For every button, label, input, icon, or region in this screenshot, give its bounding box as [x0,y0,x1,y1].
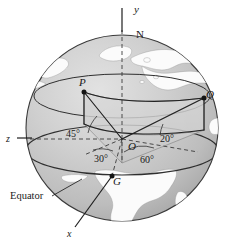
point-label-N: N [136,28,144,40]
angle-label-30: 30° [94,153,108,164]
spherical-coordinates-figure: y N z x P Q O G 45° 20° 30° 60° Equator [0,0,245,247]
angle-label-60: 60° [140,154,154,165]
angle-label-45: 45° [66,128,80,139]
dot-P [82,90,87,95]
landmass-madagascar [175,191,187,208]
point-label-O: O [128,140,136,152]
axis-label-x: x [66,228,72,239]
point-label-Q: Q [206,88,214,100]
landmass-oceania [214,149,226,160]
axis-label-z: z [5,133,10,144]
landmass-island-a [144,58,151,63]
angle-label-20: 20° [160,133,174,144]
earth-diagram-svg: y N z x P Q O G 45° 20° 30° 60° Equator [0,0,245,247]
point-label-P: P [78,76,86,88]
point-label-G: G [113,175,121,187]
equator-label: Equator [10,190,44,201]
landmass-island-c [140,80,144,83]
landmass-asia-east [209,118,230,135]
axis-label-y: y [133,3,139,15]
